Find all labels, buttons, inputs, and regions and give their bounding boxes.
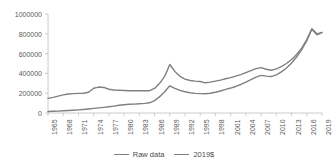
x-axis-tick-label: 2019 — [325, 119, 332, 135]
legend-line-swatch — [114, 154, 129, 155]
x-axis-tick-label: 1965 — [51, 119, 58, 135]
y-axis-tick-label: 800000 — [0, 30, 42, 37]
x-axis-tick-label: 1977 — [112, 119, 119, 135]
y-axis-tick-label: 600000 — [0, 50, 42, 57]
axis-lines — [48, 14, 322, 113]
x-axis-tick-label: 1980 — [127, 119, 134, 135]
x-axis-tick-label: 1995 — [203, 119, 210, 135]
legend-item-label: 2019$ — [193, 150, 214, 159]
x-axis-tick-label: 2016 — [310, 119, 317, 135]
x-axis-tick-label: 2001 — [234, 119, 241, 135]
x-axis-tick-label: 1974 — [97, 119, 104, 135]
x-axis-tick-label: 2004 — [249, 119, 256, 135]
data-series-group — [48, 29, 322, 112]
chart-legend: Raw data2019$ — [0, 150, 328, 159]
x-axis-tick-label: 1989 — [173, 119, 180, 135]
x-axis-tick-label: 1983 — [142, 119, 149, 135]
x-axis-tick-label: 1971 — [81, 119, 88, 135]
x-axis-tick-label: 1998 — [218, 119, 225, 135]
series-line-2 — [48, 29, 322, 99]
y-axis-tick-label: 200000 — [0, 90, 42, 97]
legend-item-label: Raw data — [133, 150, 165, 159]
legend-item[interactable]: Raw data — [114, 150, 165, 159]
y-axis-tick-label: 0 — [0, 110, 42, 117]
x-axis-tick-label: 2013 — [295, 119, 302, 135]
y-axis-tick-label: 400000 — [0, 70, 42, 77]
legend-item[interactable]: 2019$ — [174, 150, 214, 159]
x-axis-tick-label: 2010 — [279, 119, 286, 135]
legend-line-swatch — [174, 154, 189, 155]
x-axis-tick-label: 2007 — [264, 119, 271, 135]
x-axis-tick-label: 1992 — [188, 119, 195, 135]
series-line-1 — [48, 29, 322, 111]
x-axis-tick-label: 1986 — [158, 119, 165, 135]
y-axis-tick-label: 1000000 — [0, 11, 42, 18]
axis-tick-marks — [45, 14, 322, 116]
x-axis-tick-label: 1968 — [66, 119, 73, 135]
